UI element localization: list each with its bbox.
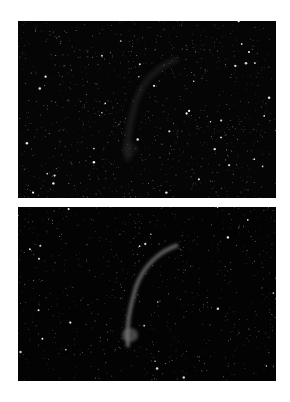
star-field-image-bottom	[18, 207, 276, 381]
star-field-image-top	[18, 21, 276, 198]
star-field-canvas-top	[18, 21, 276, 198]
star-field-canvas-bottom	[18, 207, 276, 381]
